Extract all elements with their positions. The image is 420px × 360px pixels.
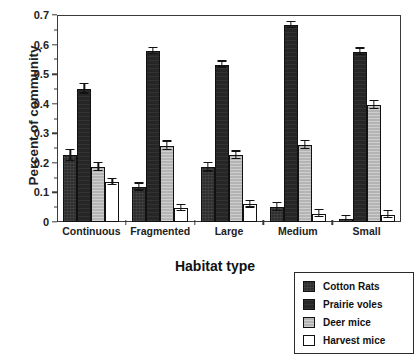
x-axis-tick-labels: ContinuousFragmentedLargeMediumSmall bbox=[57, 225, 401, 245]
error-bar bbox=[312, 15, 326, 222]
error-bar bbox=[284, 15, 298, 222]
y-axis-ticks: 00.10.20.30.40.50.60.7 bbox=[0, 0, 57, 237]
x-axis-title: Habitat type bbox=[150, 258, 280, 274]
error-bar-cap-bottom bbox=[94, 170, 103, 171]
y-tick-label: 0.2 bbox=[34, 157, 49, 169]
legend-item-harvest-mice: Harvest mice bbox=[295, 331, 413, 349]
x-tick-mark bbox=[331, 220, 332, 225]
y-tick-label: 0.1 bbox=[34, 186, 49, 198]
legend-item-deer-mice: Deer mice bbox=[295, 313, 413, 331]
legend-label: Deer mice bbox=[323, 317, 371, 328]
error-bar-cap-top bbox=[204, 162, 213, 163]
error-bar-cap-top bbox=[286, 21, 295, 22]
error-bar bbox=[367, 15, 381, 222]
error-bar-cap-top bbox=[149, 47, 158, 48]
error-bar-cap-bottom bbox=[163, 149, 172, 150]
error-bar bbox=[353, 15, 367, 222]
error-bar-cap-bottom bbox=[314, 216, 323, 217]
error-bar-cap-bottom bbox=[341, 221, 350, 222]
y-tick-label: 0 bbox=[43, 216, 49, 228]
error-bar-cap-top bbox=[232, 150, 241, 151]
error-bar-cap-top bbox=[369, 100, 378, 101]
legend: Cotton RatsPrairie volesDeer miceHarvest… bbox=[294, 272, 414, 354]
legend-swatch-icon bbox=[303, 317, 315, 328]
x-tick-label-continuous: Continuous bbox=[62, 225, 120, 237]
bar-group-fragmented bbox=[132, 15, 188, 222]
error-bar-cap-top bbox=[314, 209, 323, 210]
error-bar-cap-top bbox=[246, 200, 255, 201]
legend-label: Cotton Rats bbox=[323, 281, 380, 292]
x-tick-label-large: Large bbox=[215, 225, 244, 237]
error-bar-cap-top bbox=[135, 182, 144, 183]
legend-label: Harvest mice bbox=[323, 335, 385, 346]
y-tick-label: 0.6 bbox=[34, 39, 49, 51]
error-bar-cap-top bbox=[341, 215, 350, 216]
error-bar-cap-bottom bbox=[177, 210, 186, 211]
legend-item-cotton-rats: Cotton Rats bbox=[295, 277, 413, 295]
error-bar-cap-bottom bbox=[149, 53, 158, 54]
error-bar-cap-bottom bbox=[66, 160, 75, 161]
error-bar-cap-top bbox=[218, 60, 227, 61]
x-tick-mark bbox=[125, 220, 126, 225]
x-tick-mark bbox=[263, 220, 264, 225]
y-tick-label: 0.3 bbox=[34, 127, 49, 139]
x-tick-label-medium: Medium bbox=[278, 225, 318, 237]
x-tick-label-fragmented: Fragmented bbox=[130, 225, 190, 237]
error-bar-cap-bottom bbox=[272, 210, 281, 211]
error-bar bbox=[270, 15, 284, 222]
error-bar-cap-top bbox=[355, 47, 364, 48]
legend-swatch-icon bbox=[303, 335, 315, 346]
bar-group-small bbox=[339, 15, 395, 222]
error-bar-cap-bottom bbox=[135, 189, 144, 190]
legend-label: Prairie voles bbox=[323, 299, 382, 310]
y-tick-label: 0.7 bbox=[34, 9, 49, 21]
error-bar-cap-bottom bbox=[383, 217, 392, 218]
bar-group-continuous bbox=[63, 15, 119, 222]
error-bar-cap-top bbox=[80, 83, 89, 84]
error-bar bbox=[105, 15, 119, 222]
error-bar-cap-bottom bbox=[300, 148, 309, 149]
error-bar bbox=[132, 15, 146, 222]
error-bar-cap-top bbox=[300, 140, 309, 141]
error-bar bbox=[160, 15, 174, 222]
legend-swatch-icon bbox=[303, 299, 315, 310]
y-tick-label: 0.4 bbox=[34, 98, 49, 110]
error-bar bbox=[243, 15, 257, 222]
bar-group-large bbox=[201, 15, 257, 222]
error-bar-cap-bottom bbox=[108, 184, 117, 185]
error-bar bbox=[146, 15, 160, 222]
error-bar-cap-bottom bbox=[369, 108, 378, 109]
error-bar-cap-top bbox=[108, 178, 117, 179]
error-bar bbox=[77, 15, 91, 222]
legend-item-prairie-voles: Prairie voles bbox=[295, 295, 413, 313]
bars-layer bbox=[57, 15, 401, 222]
error-bar bbox=[298, 15, 312, 222]
error-bar-cap-bottom bbox=[286, 27, 295, 28]
error-bar bbox=[215, 15, 229, 222]
error-bar-cap-bottom bbox=[246, 206, 255, 207]
error-bar bbox=[63, 15, 77, 222]
bar-group-medium bbox=[270, 15, 326, 222]
error-bar-cap-top bbox=[94, 162, 103, 163]
y-tick-label: 0.5 bbox=[34, 68, 49, 80]
error-bar bbox=[201, 15, 215, 222]
error-bar-cap-top bbox=[163, 140, 172, 141]
error-bar bbox=[91, 15, 105, 222]
error-bar-cap-top bbox=[177, 204, 186, 205]
error-bar-cap-bottom bbox=[355, 54, 364, 55]
error-bar-cap-bottom bbox=[204, 170, 213, 171]
x-tick-label-small: Small bbox=[353, 225, 381, 237]
error-bar bbox=[229, 15, 243, 222]
legend-swatch-icon bbox=[303, 281, 315, 292]
error-bar-cap-top bbox=[383, 210, 392, 211]
error-bar-cap-bottom bbox=[218, 66, 227, 67]
error-bar-cap-bottom bbox=[80, 92, 89, 93]
error-bar-cap-bottom bbox=[232, 158, 241, 159]
error-bar bbox=[174, 15, 188, 222]
error-bar-cap-top bbox=[272, 202, 281, 203]
x-tick-mark bbox=[194, 220, 195, 225]
error-bar bbox=[339, 15, 353, 222]
error-bar bbox=[381, 15, 395, 222]
error-bar-cap-top bbox=[66, 149, 75, 150]
bar-chart-figure: Percent of community 00.10.20.30.40.50.6… bbox=[0, 0, 420, 360]
